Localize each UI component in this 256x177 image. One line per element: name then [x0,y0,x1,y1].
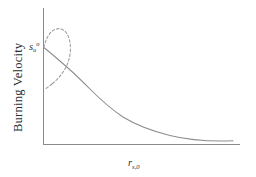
burning-velocity-chart: Burning Velocity suo rs,0 [0,0,256,177]
x-axis-label-sub: s,0 [132,163,140,170]
burning-velocity-symbol-sup: o [36,40,39,47]
chart-background [0,0,256,177]
figure-container: Burning Velocity suo rs,0 [0,0,256,177]
y-axis-label: Burning Velocity [11,42,25,132]
burning-velocity-symbol-sub: u [33,46,36,53]
